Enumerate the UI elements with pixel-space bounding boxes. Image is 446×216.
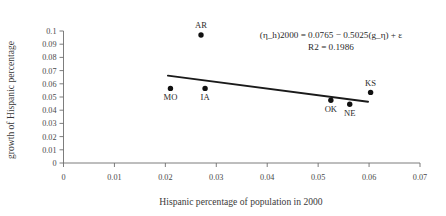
data-point-label: AR [195,20,207,30]
regression-equation: (η_h)2000 = 0.0765 − 0.5025(g_η) + ε [260,30,402,40]
y-tick-label: 0.03 [42,119,56,128]
data-point [347,102,352,107]
data-point [198,32,203,37]
x-axis-title: Hispanic percentage of population in 200… [159,196,323,207]
chart-svg: 00.010.020.030.040.050.060.070.080.090.1… [0,0,446,216]
data-point-label: MO [164,92,178,102]
data-point [328,98,333,103]
y-axis-ticks [60,31,64,163]
trend-line [168,76,368,102]
y-tick-label: 0.05 [42,93,56,102]
y-tick-label: 0 [52,159,56,168]
data-point-label: IA [201,92,211,102]
y-tick-label: 0.04 [42,106,56,115]
data-point [202,86,207,91]
x-axis-tick-labels: 00.010.020.030.040.050.060.07 [61,173,427,182]
y-tick-label: 0.1 [46,27,56,36]
y-tick-label: 0.09 [42,40,56,49]
data-point [368,90,373,95]
scatter-chart: 00.010.020.030.040.050.060.070.080.090.1… [0,0,446,216]
x-axis-ticks [64,163,421,167]
x-tick-label: 0.05 [311,173,325,182]
x-tick-label: 0.04 [260,173,274,182]
data-point [168,86,173,91]
y-tick-label: 0.06 [42,80,56,89]
y-axis-tick-labels: 00.010.020.030.040.050.060.070.080.090.1 [42,27,56,168]
y-axis-title: growth of Hispanic percentage [5,41,16,159]
y-tick-label: 0.08 [42,53,56,62]
x-tick-label: 0.06 [362,173,376,182]
r-squared-label: R2 = 0.1986 [308,42,354,52]
y-tick-label: 0.02 [42,133,56,142]
data-point-label: NE [344,108,355,118]
data-point-label: OK [325,104,338,114]
x-tick-label: 0.02 [158,173,172,182]
x-tick-label: 0.03 [209,173,223,182]
data-point-label: KS [365,78,376,88]
x-tick-label: 0.01 [107,173,121,182]
x-tick-label: 0 [61,173,65,182]
y-tick-label: 0.01 [42,146,56,155]
x-tick-label: 0.07 [413,173,427,182]
y-tick-label: 0.07 [42,67,56,76]
